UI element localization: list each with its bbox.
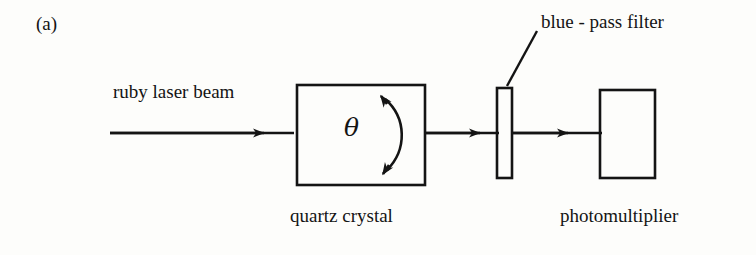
label-photomultiplier: photomultiplier (560, 206, 678, 225)
theta-symbol: θ (344, 115, 359, 140)
blue-pass-filter-leader-line (507, 31, 537, 86)
label-quartz-crystal: quartz crystal (290, 206, 393, 225)
photomultiplier-box (600, 90, 655, 178)
label-blue-pass-filter: blue - pass filter (541, 12, 664, 31)
theta-double-arrow-arc (385, 99, 402, 170)
panel-label: (a) (36, 14, 57, 33)
label-ruby-laser-beam: ruby laser beam (113, 82, 234, 101)
optical-setup-figure: (a) ruby laser beam blue - pass filter q… (0, 0, 756, 255)
quartz-crystal-box (297, 85, 425, 185)
blue-pass-filter (497, 88, 512, 178)
